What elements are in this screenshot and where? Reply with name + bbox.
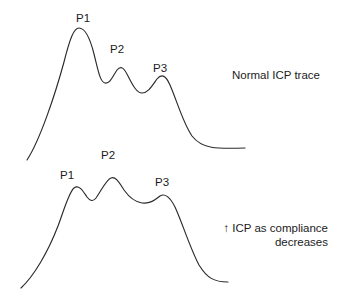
normal-icp-waveform-path	[27, 28, 245, 160]
normal-icp-trace-annotation: Normal ICP trace	[232, 68, 320, 82]
raised-trace-peak-label-p3: P3	[155, 177, 169, 189]
raised-icp-trace-annotation-line-1: ↑ ICP as compliance	[188, 221, 328, 235]
waveform-canvas	[0, 0, 357, 297]
normal-trace-peak-label-p1: P1	[76, 13, 90, 25]
normal-icp-trace-annotation-line-1: Normal ICP trace	[232, 68, 320, 82]
normal-trace-peak-label-p3: P3	[153, 63, 167, 75]
normal-trace-peak-label-p2: P2	[110, 44, 124, 56]
raised-trace-peak-label-p1: P1	[60, 170, 74, 182]
raised-icp-trace-annotation-line-2: decreases	[188, 235, 328, 249]
icp-waveform-figure: P1 P2 P3 P1 P2 P3 Normal ICP trace ↑ ICP…	[0, 0, 357, 297]
raised-icp-trace-annotation: ↑ ICP as compliance decreases	[188, 221, 328, 250]
raised-trace-peak-label-p2: P2	[101, 150, 115, 162]
